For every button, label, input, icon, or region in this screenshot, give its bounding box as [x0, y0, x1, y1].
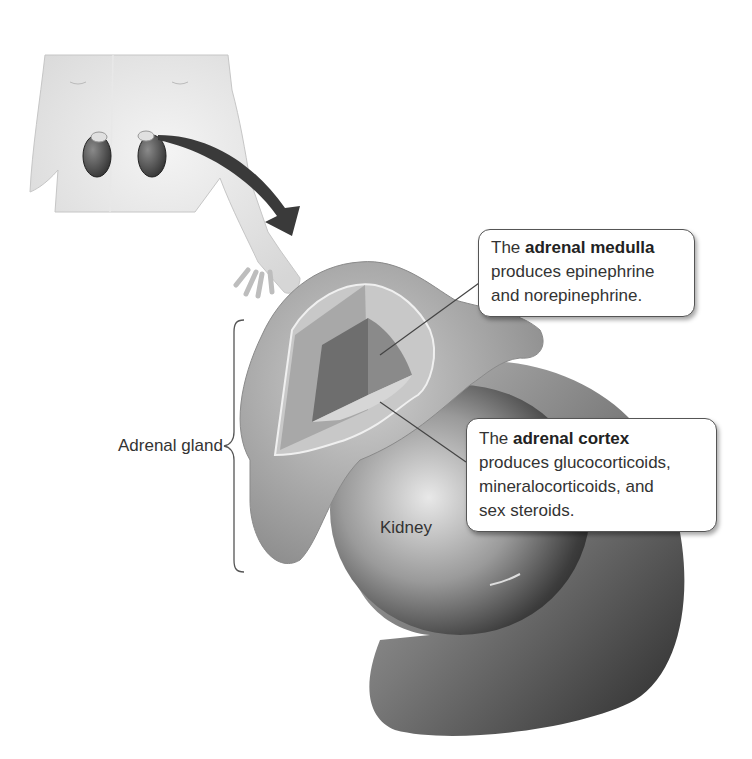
adrenal-cortex-callout: The adrenal cortex produces glucocortico… [466, 418, 717, 532]
medulla-line-2: produces epinephrine [491, 260, 682, 284]
adrenal-gland-bracket [224, 320, 244, 572]
adrenal-gland-label: Adrenal gland [118, 436, 223, 456]
cortex-line-4: sex steroids. [479, 499, 704, 523]
medulla-line-3: and norepinephrine. [491, 284, 682, 308]
adrenal-medulla-callout: The adrenal medulla produces epinephrine… [478, 229, 695, 317]
diagram-artwork [0, 0, 752, 759]
torso-inset [30, 55, 300, 296]
medulla-line-1: The adrenal medulla [491, 236, 682, 260]
adrenal-gland-diagram: The adrenal medulla produces epinephrine… [0, 0, 752, 759]
cortex-line-3: mineralocorticoids, and [479, 475, 704, 499]
cortex-line-1: The adrenal cortex [479, 427, 704, 451]
cortex-line-2: produces glucocorticoids, [479, 451, 704, 475]
kidney-label: Kidney [380, 518, 432, 538]
